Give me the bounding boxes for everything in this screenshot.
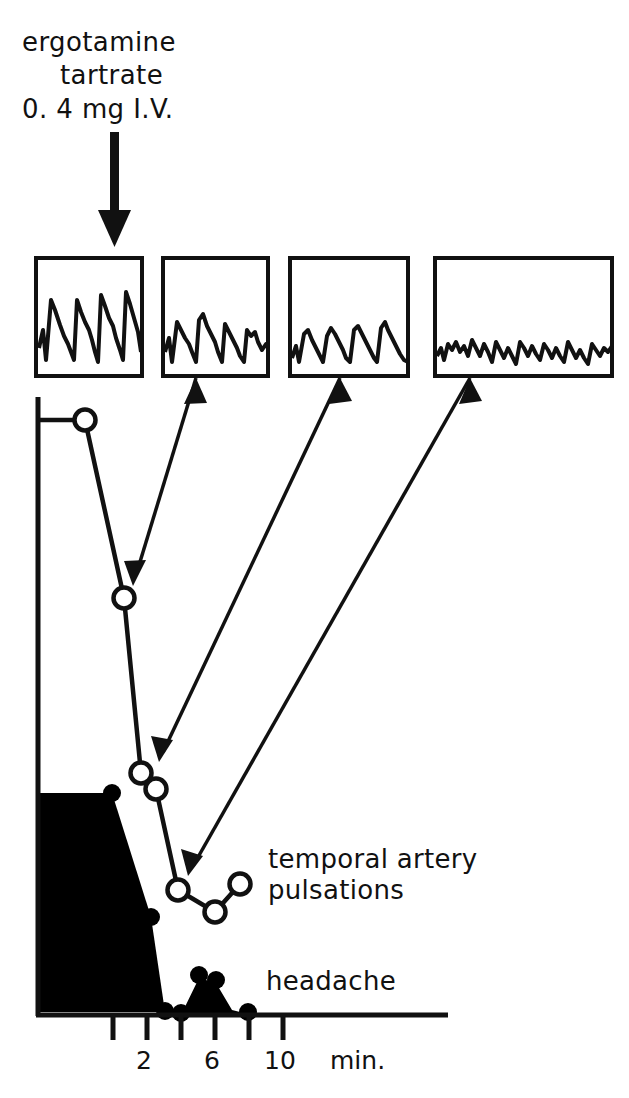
xtick-label-10: 10: [264, 1046, 296, 1075]
connector-arrow-panel3: [151, 378, 352, 762]
xtick-label-6: 6: [204, 1046, 220, 1075]
pulsation-point: [75, 410, 96, 431]
connector-arrow-panel4: [181, 378, 482, 876]
xtick-label-2: 2: [136, 1046, 152, 1075]
waveform-panel-4: [435, 258, 612, 376]
waveform-panel-3: [290, 258, 408, 376]
pulsation-point: [168, 880, 189, 901]
pulsation-point: [205, 902, 226, 923]
pulsation-point: [146, 779, 167, 800]
pulsation-point: [114, 588, 135, 609]
headache-point: [103, 784, 121, 802]
connector-arrow-panel2: [124, 378, 207, 586]
headache-point: [207, 971, 225, 989]
figure-root: ergotamine tartrate 0. 4 mg I.V. tempora…: [0, 0, 629, 1098]
down-arrow-icon: [98, 132, 131, 247]
figure-canvas: [0, 0, 629, 1098]
headache-point: [142, 908, 160, 926]
pulsation-point: [230, 874, 251, 895]
x-axis-ticks: [113, 1015, 283, 1040]
xaxis-unit-label: min.: [330, 1046, 385, 1075]
waveform-panel-1: [36, 258, 142, 376]
waveform-panel-2: [163, 258, 268, 376]
headache-point: [190, 966, 208, 984]
